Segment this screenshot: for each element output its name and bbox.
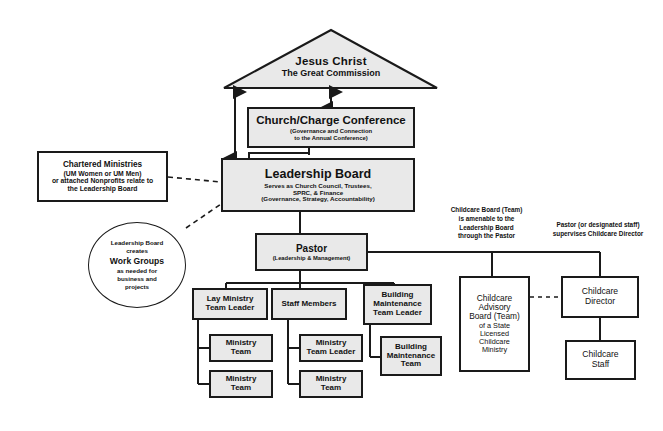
- bmt-line3: Team: [401, 360, 421, 369]
- node-ministry-team-3[interactable]: Ministry Team: [299, 370, 363, 398]
- node-lay-ministry-team-leader[interactable]: Lay Ministry Team Leader: [192, 288, 268, 320]
- jesus-christ-label: Jesus Christ The Great Commission: [231, 55, 431, 79]
- dashed-chartered-to-board: [168, 177, 221, 182]
- leadership-board-title: Leadership Board: [265, 167, 371, 181]
- ann1-line3: Leadership Board: [424, 224, 549, 233]
- chartered-line4: the Leadership Board: [68, 185, 138, 193]
- annotation-childcare-board: Childcare Board (Team) is amenable to th…: [424, 206, 549, 241]
- apex-line1: Jesus Christ: [231, 55, 431, 68]
- ministry-team-2-line2: Team: [231, 384, 251, 393]
- bmtl-line3: Team Leader: [373, 309, 422, 318]
- annotation-pastor-supervises: Pastor (or designated staff) supervises …: [534, 221, 662, 239]
- church-charge-title: Church/Charge Conference: [256, 114, 406, 127]
- staff-members-line1: Staff Members: [281, 300, 336, 309]
- pastor-title: Pastor: [296, 243, 327, 254]
- node-childcare-director[interactable]: Childcare Director: [561, 276, 639, 318]
- pastor-sub1: (Leadership & Management): [273, 255, 351, 261]
- node-church-charge-conference[interactable]: Church/Charge Conference (Governance and…: [247, 107, 415, 148]
- node-leadership-board[interactable]: Leadership Board Serves as Church Counci…: [221, 158, 415, 212]
- node-building-maintenance-team-leader[interactable]: Building Maintenance Team Leader: [363, 284, 432, 325]
- node-childcare-staff[interactable]: Childcare Staff: [565, 340, 636, 380]
- node-ministry-team-leader[interactable]: Ministry Team Leader: [299, 334, 363, 362]
- lay-ministry-line2: Team Leader: [206, 304, 255, 313]
- church-charge-sub2: to the Annual Conference): [294, 135, 367, 142]
- node-building-maintenance-team[interactable]: Building Maintenance Team: [380, 336, 442, 376]
- workgroups-line6: projects: [125, 283, 149, 291]
- ministry-team-1-line2: Team: [231, 348, 251, 357]
- node-ministry-team-2[interactable]: Ministry Team: [209, 370, 273, 398]
- chartered-line1: Chartered Ministries: [63, 160, 142, 169]
- childcare-director-line2: Director: [585, 297, 615, 307]
- ann1-line2: is amenable to the: [424, 215, 549, 224]
- workgroups-line4: as needed for: [117, 267, 157, 275]
- chartered-line3: or attached Nonprofits relate to: [52, 177, 153, 185]
- cab-line7: Ministry: [482, 346, 507, 354]
- workgroups-line5: business and: [117, 275, 157, 283]
- ann1-line1: Childcare Board (Team): [424, 206, 549, 215]
- ann2-line1: Pastor (or designated staff): [534, 221, 662, 230]
- node-staff-members[interactable]: Staff Members: [271, 288, 347, 320]
- ann1-line4: through the Pastor: [424, 232, 549, 241]
- node-chartered-ministries[interactable]: Chartered Ministries (UM Women or UM Men…: [37, 151, 168, 202]
- ann2-line2: supervises Childcare Director: [534, 230, 662, 239]
- node-ministry-team-1[interactable]: Ministry Team: [209, 334, 273, 362]
- node-work-groups[interactable]: Leadership Board creates Work Groups as …: [88, 222, 186, 308]
- apex-line2: The Great Commission: [231, 68, 431, 78]
- ministry-team-leader-line2: Team Leader: [307, 348, 356, 357]
- node-childcare-advisory-board[interactable]: Childcare Advisory Board (Team) of a Sta…: [459, 276, 530, 372]
- chartered-line2: (UM Women or UM Men): [63, 170, 141, 178]
- workgroups-line3: Work Groups: [110, 256, 164, 267]
- childcare-staff-line2: Staff: [592, 360, 610, 370]
- church-charge-sub1: (Governance and Connection: [290, 128, 372, 135]
- ministry-team-3-line2: Team: [321, 384, 341, 393]
- dashed-workgroups-to-board: [186, 204, 221, 228]
- workgroups-line1: Leadership Board: [111, 239, 164, 247]
- org-chart-diagram: Jesus Christ The Great Commission Church…: [0, 0, 663, 431]
- node-pastor[interactable]: Pastor (Leadership & Management): [255, 233, 368, 271]
- leadership-board-sub3: (Governance, Strategy, Accountability): [261, 196, 374, 203]
- workgroups-line2: creates: [126, 247, 148, 255]
